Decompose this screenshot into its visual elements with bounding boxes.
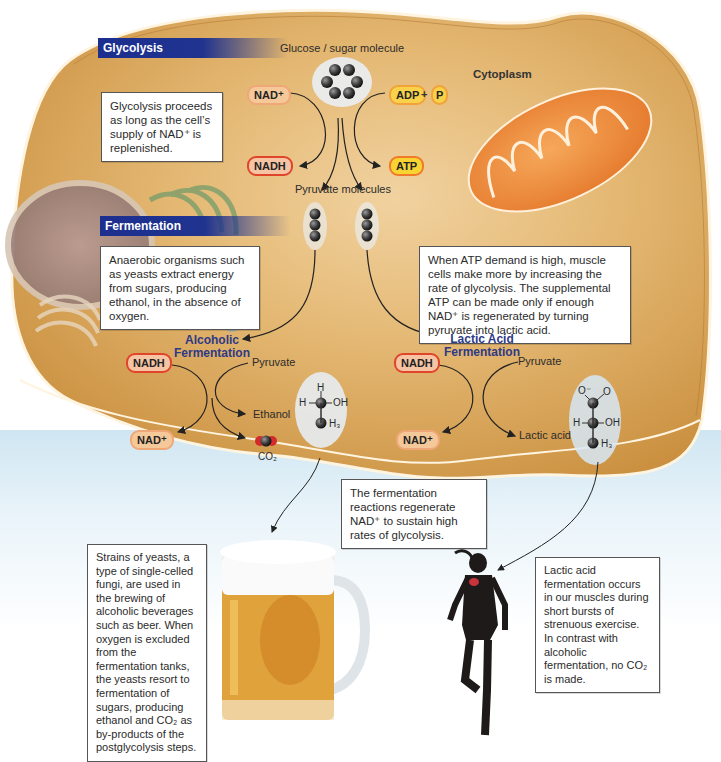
- glycolysis-callout: Glycolysis proceeds as long as the cell’…: [101, 92, 223, 162]
- lactic-h3: H₃: [601, 438, 612, 449]
- section-header-glycolysis: Glycolysis: [98, 38, 288, 58]
- section-header-fermentation: Fermentation: [100, 216, 290, 236]
- glucose-label: Glucose / sugar molecule: [280, 42, 404, 54]
- phosphate-badge: P: [431, 85, 448, 105]
- lactic-nadh-badge: NADH: [394, 353, 440, 373]
- nad-plus-badge: NAD⁺: [247, 85, 291, 105]
- alcoholic-nad-plus-badge: NAD⁺: [130, 430, 174, 450]
- lactic-fermentation-title: Lactic Acid Fermentation: [438, 333, 526, 359]
- ethanol-h-top: H: [317, 382, 324, 393]
- plus-sign: +: [421, 88, 427, 100]
- lactic-o-minus: O⁻: [578, 385, 591, 396]
- cytoplasm-label: Cytoplasm: [473, 68, 532, 80]
- ethanol-oh: OH: [333, 397, 348, 408]
- alcoholic-nadh-badge: NADH: [126, 353, 172, 373]
- co2-label: CO₂: [258, 451, 277, 462]
- lactic-acid-label: Lactic acid: [519, 429, 571, 441]
- lactic-o: O: [603, 386, 611, 397]
- lactic-nad-plus-badge: NAD⁺: [396, 430, 440, 450]
- anaerobic-callout: Anaerobic organisms such as yeasts extra…: [100, 246, 260, 330]
- alcoholic-pyruvate-label: Pyruvate: [252, 356, 295, 368]
- atp-demand-callout: When ATP demand is high, muscle cells ma…: [419, 246, 631, 344]
- atp-badge: ATP: [389, 156, 424, 176]
- beer-callout: Strains of yeasts, a type of single-cell…: [87, 544, 207, 762]
- lactic-title-line2: Fermentation: [438, 346, 526, 359]
- lactic-pyruvate-label: Pyruvate: [518, 355, 561, 367]
- nadh-badge: NADH: [247, 156, 293, 176]
- alcoholic-title-line2: Fermentation: [172, 347, 252, 360]
- runner-callout: Lactic acid fermentation occurs in our m…: [535, 557, 660, 693]
- ethanol-label: Ethanol: [253, 408, 290, 420]
- beer-mug: [220, 540, 365, 720]
- runner-silhouette: [450, 551, 505, 735]
- pyruvate-molecules-label: Pyruvate molecules: [295, 183, 391, 195]
- regeneration-callout: The fermentation reactions regenerate NA…: [341, 479, 487, 549]
- ethanol-h3: H₃: [329, 418, 340, 429]
- lactic-oh: OH: [605, 417, 620, 428]
- alcoholic-fermentation-title: Alcoholic Fermentation: [172, 334, 252, 360]
- lactic-h-left: H: [573, 417, 580, 428]
- ethanol-h-left: H: [299, 397, 306, 408]
